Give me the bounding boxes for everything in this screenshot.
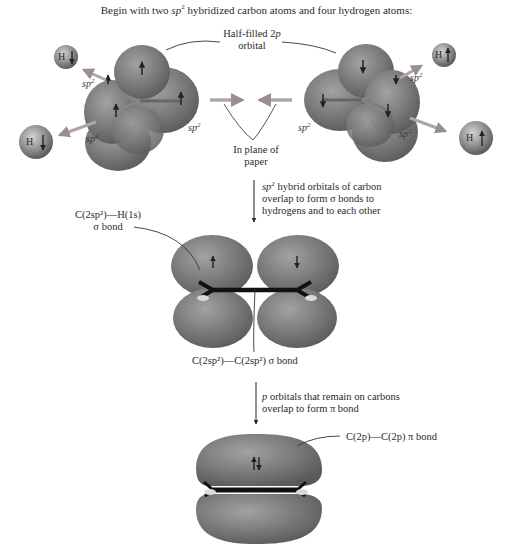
half-filled-orbital-label: Half-filled 2p orbital	[210, 28, 294, 52]
title-sp: sp	[171, 4, 181, 16]
ch-sigma-line1: C(2sp²)—H(1s)	[66, 209, 150, 221]
right-carbon-sp2	[304, 44, 445, 162]
orbital-text: orbital	[210, 40, 294, 52]
step1-line1: hybrid orbitals of carbon	[275, 181, 382, 192]
step1-line3: hydrogens and to each other	[262, 205, 382, 217]
step1-description: sp2 hybrid orbitals of carbon overlap to…	[262, 181, 382, 217]
step2-line1: orbitals that remain on carbons	[267, 391, 400, 402]
cc-sigma-bond-label: C(2sp²)—C(2sp²) σ bond	[192, 355, 298, 367]
sp2-label-left-right: sp2	[188, 122, 200, 133]
diagram-artwork	[0, 0, 513, 553]
hydrogen-label-top-right: H	[435, 49, 442, 61]
step1-sp: sp	[262, 181, 271, 192]
hydrogen-label-bottom-right: H	[466, 132, 473, 144]
ch-sigma-line2: σ bond	[66, 221, 150, 233]
title-text-pre: Begin with two	[101, 4, 172, 16]
sp2-label-right-left: sp2	[298, 122, 310, 133]
hydrogen-label-top-left: H	[58, 51, 65, 63]
in-plane-arrows	[210, 100, 292, 140]
half-filled-p: p	[275, 28, 280, 39]
hydrogen-label-bottom-left: H	[26, 136, 33, 148]
step2-description: p orbitals that remain on carbons overla…	[262, 391, 400, 415]
half-filled-text: Half-filled 2	[223, 28, 275, 39]
sigma-framework	[134, 227, 339, 352]
left-carbon-sp2	[60, 45, 199, 171]
step2-line2: overlap to form π bond	[262, 403, 400, 415]
in-plane-label: In plane of paper	[226, 144, 286, 168]
in-plane-line2: paper	[226, 156, 286, 168]
sp2-label-left-upper: sp2	[82, 78, 94, 89]
step1-line2: overlap to form σ bonds to	[262, 193, 382, 205]
sp2-label-right-lower: sp2	[399, 128, 411, 139]
pi-bond-label: C(2p)—C(2p) π bond	[346, 431, 437, 443]
sp2-label-right-upper: sp2	[410, 72, 422, 83]
sp2-label-left-lower: sp2	[86, 133, 98, 144]
title-text-post: hybridized carbon atoms and four hydroge…	[185, 4, 413, 16]
ch-sigma-bond-label: C(2sp²)—H(1s) σ bond	[66, 209, 150, 233]
pi-bond-orbital	[196, 434, 340, 544]
diagram-title: Begin with two sp2 hybridized carbon ato…	[0, 4, 513, 16]
in-plane-line1: In plane of	[226, 144, 286, 156]
